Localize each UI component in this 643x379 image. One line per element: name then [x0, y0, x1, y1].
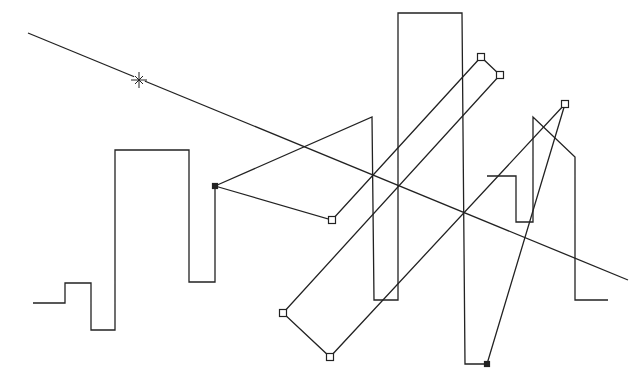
handle-group: [213, 54, 569, 367]
control-handle[interactable]: [478, 54, 485, 61]
control-handle[interactable]: [497, 72, 504, 79]
star-icon[interactable]: [131, 72, 147, 88]
tall-bar-polyline[interactable]: [215, 13, 487, 364]
control-handle[interactable]: [329, 217, 336, 224]
step-polyline[interactable]: [33, 150, 215, 330]
control-polygon[interactable]: [215, 57, 565, 364]
reference-line[interactable]: [28, 33, 628, 280]
right-step-polyline[interactable]: [487, 117, 608, 300]
control-handle[interactable]: [485, 362, 490, 367]
control-handle[interactable]: [562, 101, 569, 108]
control-handle[interactable]: [280, 310, 287, 317]
control-handle[interactable]: [327, 354, 334, 361]
drawing-canvas[interactable]: [0, 0, 643, 379]
control-handle[interactable]: [213, 184, 218, 189]
diagram-svg: [0, 0, 643, 379]
